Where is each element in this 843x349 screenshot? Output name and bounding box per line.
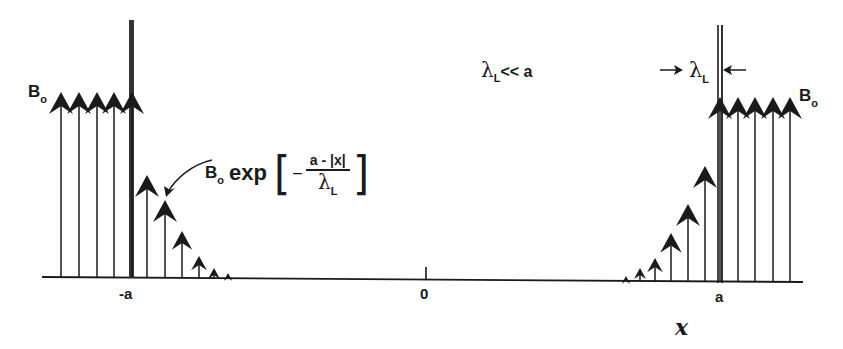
condition-label: λL<< a [481,58,532,82]
field-arrow-right-outside-icon [761,97,785,282]
field-arrow-right-outside-icon [743,97,767,282]
penetration-depth-arrow-right-icon [723,65,746,75]
field-arrow-left-decay-icon [172,231,192,278]
decay-formula: Bo exp [ – a - |x| λL ] [205,150,370,196]
field-arrow-left-outside-icon [102,92,126,277]
field-arrow-right-outside-icon [708,97,732,281]
field-arrow-right-outside-icon [778,97,802,282]
b0-right-sub: o [811,97,818,109]
penetration-lambda-sub: L [702,73,709,85]
b0-left-text: B [28,82,40,101]
field-arrow-left-outside-icon [120,92,144,278]
field-arrow-left-decay-icon [135,175,159,278]
b0-left-sub: o [40,93,47,105]
formula-lambda: λ [318,170,331,194]
field-arrow-left-outside-icon [49,92,73,277]
formula-exp: exp [229,160,267,186]
axis-label-x: x [675,314,688,340]
formula-b-sub: o [217,174,224,186]
x-axis [42,277,803,282]
field-arrow-left-decay-icon [191,256,207,278]
b0-right-text: B [799,86,811,105]
formula-minus: – [293,164,302,182]
b0-left-label: Bo [28,82,47,102]
penetration-lambda: λ [689,58,702,82]
field-arrows [49,92,802,284]
formula-numerator: a - |x| [306,151,350,171]
penetration-depth-arrow-left-icon [660,65,683,75]
field-arrow-right-outside-icon [726,97,750,282]
formula-denominator: λL [318,171,337,196]
field-arrow-right-decay-icon [660,233,682,281]
axis-label-zero: 0 [420,285,428,302]
field-arrow-right-decay-icon [622,276,630,284]
field-arrow-left-decay-icon [208,268,220,279]
formula-open-bracket: [ [274,150,290,196]
formula-lambda-sub: L [331,185,338,197]
condition-rest: << a [500,63,532,80]
field-arrow-left-outside-icon [67,92,91,277]
formula-b0: Bo [205,163,224,183]
penetration-depth-label: λL [689,58,709,82]
condition-lambda-sub: L [494,72,501,84]
field-arrow-right-decay-icon [647,258,663,281]
formula-b: B [205,163,217,182]
formula-close-bracket: ] [353,150,369,196]
field-arrow-right-decay-icon [634,268,646,281]
b0-right-label: Bo [799,86,818,106]
field-arrow-left-decay-icon [224,273,232,281]
field-arrow-left-decay-icon [153,200,177,278]
condition-lambda: λ [481,58,494,82]
axis-label-neg-a: -a [119,285,132,302]
field-arrow-left-outside-icon [85,92,109,277]
field-arrow-right-decay-icon [676,204,700,281]
formula-fraction: a - |x| λL [306,151,350,196]
axis-label-pos-a: a [715,288,723,305]
